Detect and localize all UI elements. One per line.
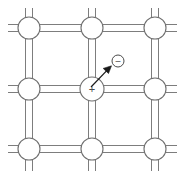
lattice-ion-r3c3 — [144, 138, 166, 160]
lattice-ion-r1c1 — [18, 17, 40, 39]
negative-charge-symbol: – — [115, 56, 120, 66]
lattice-ion-r3c2 — [81, 138, 103, 160]
lattice-ion-r2c1 — [18, 78, 40, 100]
lattice-ion-r1c3 — [144, 17, 166, 39]
lattice-figure: + – — [0, 0, 184, 179]
lattice-ion-r3c1 — [18, 138, 40, 160]
lattice-ion-r2c3 — [144, 78, 166, 100]
crystal-lattice-diagram: + – — [0, 0, 184, 179]
lattice-ion-r1c2 — [81, 17, 103, 39]
